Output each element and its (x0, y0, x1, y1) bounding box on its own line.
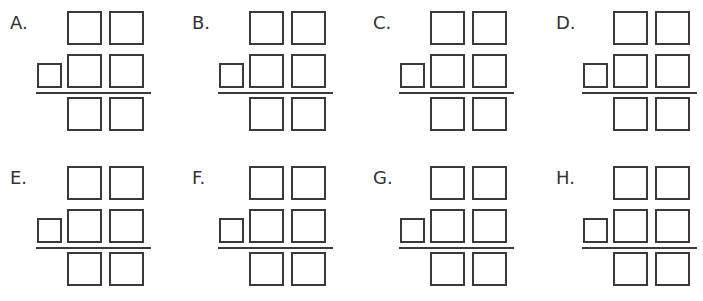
carry-box (37, 218, 62, 243)
carry-box (400, 218, 425, 243)
carry-box (583, 218, 608, 243)
middle-tens-box (430, 209, 465, 243)
panel-label: B. (192, 14, 210, 32)
panel-label: A. (10, 14, 28, 32)
carry-box (400, 63, 425, 88)
middle-ones-box (472, 209, 507, 243)
addition-panel-c: C. (373, 0, 543, 140)
sum-ones-box (291, 252, 326, 286)
sum-tens-box (430, 97, 465, 131)
top-ones-box (291, 166, 326, 200)
sum-ones-box (472, 97, 507, 131)
middle-ones-box (109, 54, 144, 88)
addition-panel-b: B. (192, 0, 362, 140)
middle-ones-box (472, 54, 507, 88)
top-tens-box (67, 11, 102, 45)
top-ones-box (109, 11, 144, 45)
carry-box (219, 63, 244, 88)
sum-line (36, 247, 151, 249)
addition-panel-f: F. (192, 155, 362, 295)
sum-ones-box (472, 252, 507, 286)
top-tens-box (430, 166, 465, 200)
middle-tens-box (249, 54, 284, 88)
middle-ones-box (291, 54, 326, 88)
middle-ones-box (655, 209, 690, 243)
sum-ones-box (655, 252, 690, 286)
addition-panel-d: D. (556, 0, 703, 140)
sum-tens-box (430, 252, 465, 286)
top-ones-box (655, 11, 690, 45)
sum-tens-box (249, 97, 284, 131)
sum-ones-box (109, 97, 144, 131)
panel-label: H. (556, 169, 575, 187)
sum-line (218, 247, 333, 249)
sum-tens-box (249, 252, 284, 286)
sum-tens-box (613, 252, 648, 286)
top-tens-box (67, 166, 102, 200)
middle-ones-box (109, 209, 144, 243)
middle-tens-box (430, 54, 465, 88)
middle-tens-box (613, 209, 648, 243)
sum-line (399, 247, 514, 249)
middle-ones-box (291, 209, 326, 243)
sum-line (582, 92, 697, 94)
carry-box (37, 63, 62, 88)
panel-label: D. (556, 14, 576, 32)
top-tens-box (249, 166, 284, 200)
sum-tens-box (67, 97, 102, 131)
addition-panel-a: A. (10, 0, 180, 140)
sum-ones-box (655, 97, 690, 131)
middle-tens-box (67, 209, 102, 243)
addition-panel-e: E. (10, 155, 180, 295)
sum-ones-box (109, 252, 144, 286)
middle-tens-box (67, 54, 102, 88)
middle-ones-box (655, 54, 690, 88)
top-ones-box (472, 166, 507, 200)
addition-panel-h: H. (556, 155, 703, 295)
top-ones-box (472, 11, 507, 45)
top-ones-box (291, 11, 326, 45)
panel-label: F. (192, 169, 205, 187)
top-tens-box (430, 11, 465, 45)
carry-box (583, 63, 608, 88)
panel-label: C. (373, 14, 391, 32)
top-tens-box (613, 166, 648, 200)
addition-panel-g: G. (373, 155, 543, 295)
top-tens-box (249, 11, 284, 45)
carry-box (219, 218, 244, 243)
sum-line (36, 92, 151, 94)
sum-tens-box (67, 252, 102, 286)
top-ones-box (655, 166, 690, 200)
panel-label: E. (10, 169, 27, 187)
top-tens-box (613, 11, 648, 45)
middle-tens-box (613, 54, 648, 88)
top-ones-box (109, 166, 144, 200)
sum-line (582, 247, 697, 249)
sum-tens-box (613, 97, 648, 131)
sum-line (218, 92, 333, 94)
sum-ones-box (291, 97, 326, 131)
sum-line (399, 92, 514, 94)
panel-label: G. (373, 169, 393, 187)
middle-tens-box (249, 209, 284, 243)
